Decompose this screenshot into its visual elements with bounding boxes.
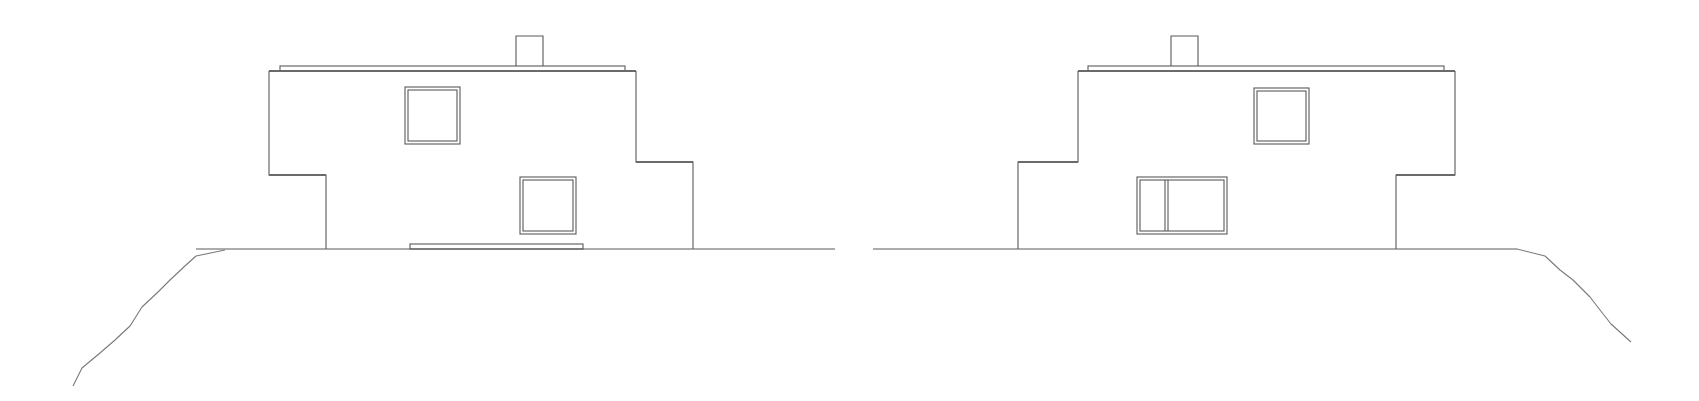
window-frame-outer <box>1137 177 1227 234</box>
window-frame-inner <box>1140 180 1224 231</box>
elevation-right <box>873 36 1631 342</box>
window-frame-inner <box>523 180 573 231</box>
window-frame-inner <box>408 90 457 141</box>
chimney <box>516 36 543 66</box>
wall-outline-right <box>1396 71 1455 249</box>
elevation-drawing <box>0 0 1699 401</box>
elevation-left <box>73 36 835 386</box>
upper-window <box>405 87 460 144</box>
terrain-slope <box>1517 249 1631 342</box>
lower-window <box>520 177 576 234</box>
window-frame-outer <box>405 87 460 144</box>
wall-outline-left <box>269 71 326 249</box>
window-frame-inner <box>1257 91 1306 141</box>
window-frame-outer <box>520 177 576 234</box>
chimney <box>1171 36 1198 66</box>
wall-outline-left <box>1018 71 1078 249</box>
upper-window <box>1254 88 1309 144</box>
entrance-step <box>410 244 583 249</box>
lower-window <box>1137 177 1227 234</box>
terrain-slope <box>73 250 225 386</box>
wall-outline-right <box>636 71 693 249</box>
window-frame-outer <box>1254 88 1309 144</box>
